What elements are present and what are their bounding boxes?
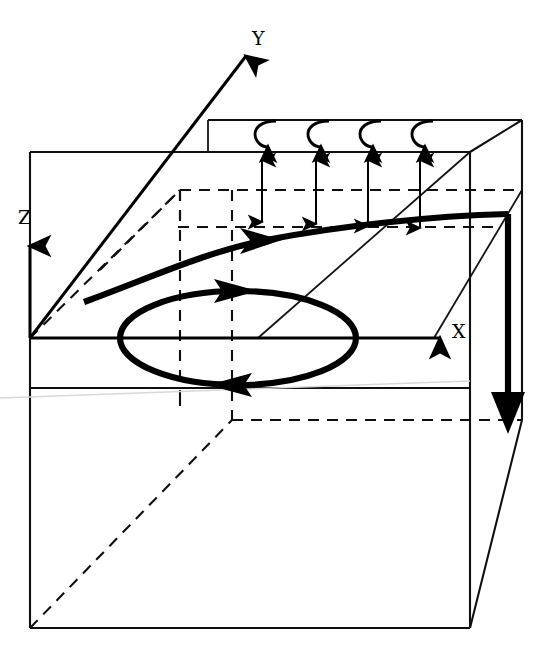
x-axis-label: X [452,320,466,342]
z-axis-label: Z [18,206,31,228]
figure-canvas: Y Z X [0,0,552,663]
y-axis-label: Y [251,27,265,49]
flow-diagram-svg: Y Z X [0,0,552,663]
